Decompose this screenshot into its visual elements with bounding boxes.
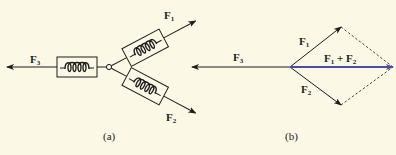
label-f1-b: F1 xyxy=(299,35,310,49)
panel-a: F3 F1 F2 (a) xyxy=(7,9,200,143)
label-resultant: F1 + F2 xyxy=(324,52,357,66)
caption-a: (a) xyxy=(103,130,116,143)
spring-scale-f3 xyxy=(57,57,97,77)
parallelogram-edge-bottom xyxy=(341,67,393,105)
force-f1-arrow xyxy=(164,21,196,38)
spring-scale-f1 xyxy=(107,12,201,74)
vector-f2 xyxy=(290,67,341,105)
label-f3-b: F3 xyxy=(233,51,244,65)
junction-ring-icon xyxy=(106,64,111,69)
caption-b: (b) xyxy=(285,130,298,143)
label-f1-a: F1 xyxy=(164,9,175,23)
label-f2-b: F2 xyxy=(301,83,312,97)
force-diagram-figure: F3 F1 F2 (a) F3 F1 F2 F1 + F2 (b) xyxy=(0,0,396,155)
label-f3-a: F3 xyxy=(30,53,41,67)
spring-scale-f2 xyxy=(107,59,201,121)
label-f2-a: F2 xyxy=(166,111,177,125)
panel-b: F3 F1 F2 F1 + F2 (b) xyxy=(192,27,393,143)
